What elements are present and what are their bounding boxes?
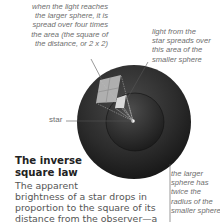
label-line: spread over four times xyxy=(4,20,108,29)
larger-sphere-area-label: when the light reaches the larger sphere… xyxy=(4,2,108,48)
heading-line: square law xyxy=(15,167,125,179)
label-line: the area (the square of xyxy=(4,30,108,39)
label-line: the larger sphere, it is xyxy=(4,11,108,20)
body-line: The apparent xyxy=(15,180,215,191)
label-line: smaller sphere xyxy=(152,55,220,64)
section-heading: The inverse square law xyxy=(15,155,125,179)
body-paragraph: The apparent brightness of a star drops … xyxy=(15,180,215,222)
body-line: proportion to the square of its xyxy=(15,202,215,213)
heading-line: The inverse xyxy=(15,155,125,167)
label-line: light from the xyxy=(152,27,220,36)
label-line: when the light reaches xyxy=(4,2,108,11)
label-line: the distance, or 2 x 2) xyxy=(4,39,108,48)
label-line: the larger xyxy=(171,169,220,178)
body-line: brightness of a star drops in xyxy=(15,191,215,202)
body-line: distance from the observer—a xyxy=(15,213,215,222)
label-line: star spreads over xyxy=(152,36,220,45)
inverse-square-law-diagram: when the light reaches the larger sphere… xyxy=(0,0,220,222)
smaller-sphere-area-label: light from the star spreads over this ar… xyxy=(152,27,220,64)
star-label: star xyxy=(49,115,62,124)
label-line: this area of the xyxy=(152,45,220,54)
